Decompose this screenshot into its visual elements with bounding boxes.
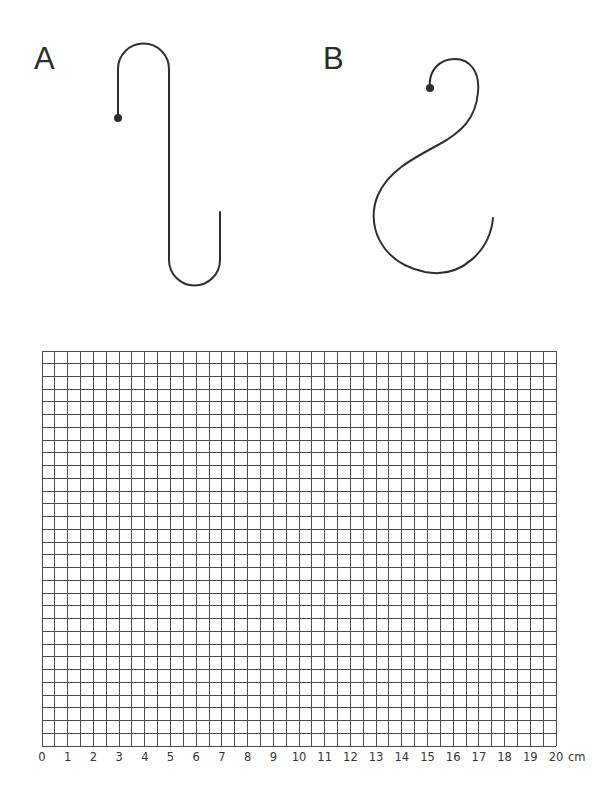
axis-tick-label: 4: [141, 750, 148, 764]
axis-tick-label: 5: [167, 750, 174, 764]
axis-tick-label: 3: [115, 750, 122, 764]
axis-tick-label: 10: [292, 750, 307, 764]
figure-a-endpoint-dot: [114, 114, 122, 122]
axis-tick-label: 8: [244, 750, 251, 764]
axis-tick-label: 9: [270, 750, 277, 764]
axis-tick-label: 16: [446, 750, 461, 764]
figure-b-curve: [374, 59, 493, 273]
axis-tick-label: 18: [497, 750, 512, 764]
axis-tick-label: 19: [523, 750, 538, 764]
figure-a-hook: [118, 44, 220, 286]
axis-tick-label: 15: [420, 750, 435, 764]
axis-unit-label: cm: [568, 750, 586, 764]
axis-tick-label: 7: [218, 750, 225, 764]
axis-tick-label: 12: [343, 750, 358, 764]
axis-tick-label: 13: [369, 750, 384, 764]
axis-tick-label: 20: [549, 750, 564, 764]
diagram-canvas: [0, 0, 613, 788]
axis-tick-label: 0: [38, 750, 45, 764]
axis-tick-label: 11: [317, 750, 332, 764]
figure-b-endpoint-dot: [426, 84, 434, 92]
axis-tick-label: 6: [193, 750, 200, 764]
axis-tick-label: 14: [394, 750, 409, 764]
axis-tick-label: 17: [472, 750, 487, 764]
axis-tick-label: 1: [64, 750, 71, 764]
measurement-grid: [42, 351, 556, 746]
axis-tick-label: 2: [90, 750, 97, 764]
